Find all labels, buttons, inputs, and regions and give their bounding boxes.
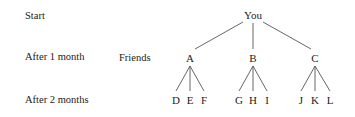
leaf-node-g: G [235, 94, 243, 106]
leaf-node-l: L [327, 94, 334, 106]
leaf-node-e: E [187, 94, 194, 106]
leaf-node-f: F [201, 94, 207, 106]
friend-node-b: B [249, 52, 256, 64]
leaf-node-j: J [299, 94, 303, 106]
root-node-you: You [244, 9, 262, 21]
friend-node-c: C [311, 52, 318, 64]
friends-label: Friends [119, 52, 151, 64]
row-label-start: Start [25, 10, 45, 22]
leaf-node-k: K [311, 94, 319, 106]
leaf-node-d: D [172, 94, 180, 106]
row-label-after-1-month: After 1 month [25, 51, 85, 63]
friend-node-a: A [186, 52, 194, 64]
row-label-after-2-months: After 2 months [25, 94, 89, 106]
leaf-node-i: I [265, 94, 269, 106]
leaf-node-h: H [249, 94, 257, 106]
